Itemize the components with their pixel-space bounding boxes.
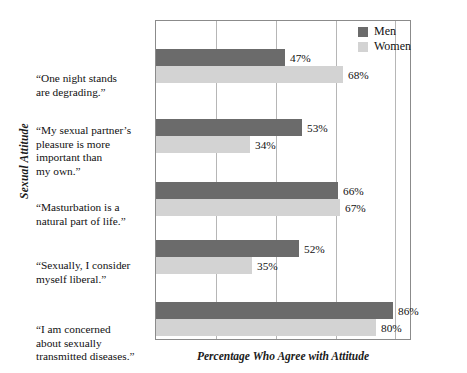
category-label-line: “I am concerned [36,323,152,337]
legend-swatch-icon [358,27,368,37]
bar-value-label: 67% [345,202,366,214]
bar-value-label: 34% [255,139,276,151]
category-label-line: natural part of life.” [36,215,152,229]
y-axis-title: Sexual Attitude [18,91,30,231]
bar-value-label: 53% [307,122,328,134]
category-label-line: “My sexual partner’s [36,124,152,138]
category-label-line: important than [36,151,152,165]
bar-women [156,319,376,336]
legend-label: Men [374,25,396,38]
bar-value-label: 66% [343,185,364,197]
bar-value-label: 35% [257,260,278,272]
chart-legend: MenWomen [358,24,458,54]
bar-women [156,136,250,153]
category-label-line: “Masturbation is a [36,201,152,215]
category-label-line: my own.” [36,165,152,179]
category-label: “Masturbation is anatural part of life.” [36,201,152,228]
legend-swatch-icon [358,42,368,52]
bar-value-label: 52% [304,243,325,255]
category-label: “One night standsare degrading.” [36,72,152,99]
bar-value-label: 86% [398,305,419,317]
category-label-line: pleasure is more [36,138,152,152]
category-label-line: transmitted diseases.” [36,350,152,364]
category-label-line: “Sexually, I consider [36,259,152,273]
legend-label: Women [374,40,411,53]
gridline [395,21,396,339]
bar-men [156,182,338,199]
bar-chart-figure: Sexual Attitude “One night standsare deg… [0,0,467,373]
plot-area: 47%68%53%34%66%67%52%35%86%80% [155,20,411,340]
bar-men [156,240,299,257]
category-label-line: are degrading.” [36,86,152,100]
category-label-line: “One night stands [36,72,152,86]
bar-value-label: 47% [290,52,311,64]
bar-men [156,302,393,319]
category-label-line: myself liberal.” [36,273,152,287]
bar-women [156,199,340,216]
legend-item: Men [358,24,458,39]
bar-value-label: 80% [381,322,402,334]
category-label-column: “One night standsare degrading.”“My sexu… [36,20,152,340]
bar-men [156,49,285,66]
bar-women [156,257,252,274]
category-label: “Sexually, I considermyself liberal.” [36,259,152,286]
category-label-line: about sexually [36,337,152,351]
x-axis-title: Percentage Who Agree with Attitude [155,350,411,362]
bar-women [156,66,343,83]
category-label: “I am concernedabout sexuallytransmitted… [36,323,152,364]
legend-item: Women [358,39,458,54]
category-label: “My sexual partner’spleasure is moreimpo… [36,124,152,178]
bar-men [156,119,302,136]
bar-value-label: 68% [348,69,369,81]
